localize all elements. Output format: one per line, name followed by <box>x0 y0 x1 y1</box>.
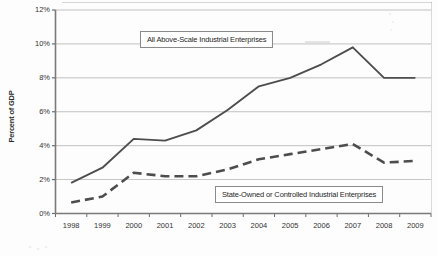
y-axis-tick-label: 10% <box>24 39 50 48</box>
y-axis-tick-label: 8% <box>24 73 50 82</box>
x-axis-tick-label: 2000 <box>117 221 151 230</box>
y-axis-tick-label: 2% <box>24 175 50 184</box>
y-axis-title: Percent of GDP <box>7 77 16 157</box>
x-axis-tick-label: 2003 <box>211 221 245 230</box>
series-label-state-owned: State-Owned or Controlled Industrial Ent… <box>215 186 383 203</box>
chart-screenshot: Percent of GDP 0% 2% 4% 6% 8% 10% 12% 19… <box>0 0 438 256</box>
x-axis-tick-label: 2008 <box>367 221 401 230</box>
y-axis-tick-label: 12% <box>24 5 50 14</box>
x-axis-tick-label: 2004 <box>242 221 276 230</box>
y-axis-tick-label: 0% <box>24 209 50 218</box>
y-axis-tick-label: 6% <box>24 107 50 116</box>
x-axis-tick-label: 2009 <box>398 221 432 230</box>
x-axis-tick-label: 2005 <box>273 221 307 230</box>
x-axis-tick-label: 1998 <box>54 221 88 230</box>
x-axis-tick-label: 2006 <box>304 221 338 230</box>
series-label-all-above-scale: All Above-Scale Industrial Enterprises <box>140 31 273 48</box>
x-axis-tick-label: 1999 <box>85 221 119 230</box>
x-axis-tick-label: 2001 <box>148 221 182 230</box>
x-axis-tick-label: 2007 <box>336 221 370 230</box>
y-axis-tick-label: 4% <box>24 141 50 150</box>
x-axis-tick-label: 2002 <box>179 221 213 230</box>
